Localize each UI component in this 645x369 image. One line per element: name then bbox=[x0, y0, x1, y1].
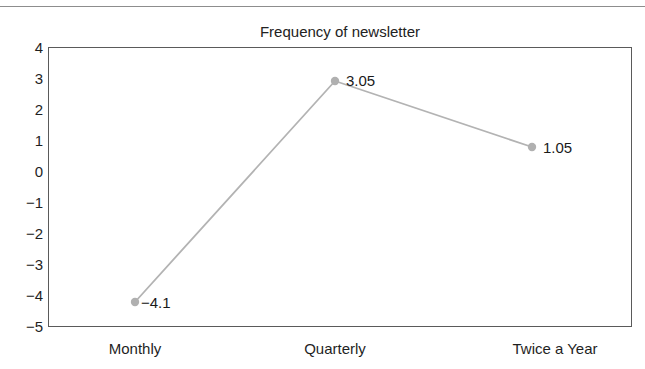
y-tick-label: 3 bbox=[3, 71, 43, 86]
data-point-marker[interactable] bbox=[131, 298, 139, 306]
y-tick-label: −2 bbox=[3, 226, 43, 241]
x-tick-label-monthly: Monthly bbox=[75, 340, 195, 357]
y-tick-label: −3 bbox=[3, 257, 43, 272]
y-tick-label: −1 bbox=[3, 195, 43, 210]
y-axis: 4 3 2 1 0 −1 −2 −3 −4 −5 bbox=[0, 0, 43, 369]
data-point-label: 1.05 bbox=[543, 140, 572, 155]
data-line bbox=[135, 81, 532, 302]
top-divider-rule bbox=[0, 6, 645, 7]
y-tick-label: −4 bbox=[3, 288, 43, 303]
y-tick-label: 2 bbox=[3, 102, 43, 117]
chart-page: Frequency of newsletter 4 3 2 1 0 −1 −2 … bbox=[0, 0, 645, 369]
y-tick-label: −5 bbox=[3, 319, 43, 334]
data-point-marker[interactable] bbox=[528, 143, 536, 151]
y-tick-label: 4 bbox=[3, 40, 43, 55]
data-point-label: −4.1 bbox=[141, 295, 171, 310]
chart-title: Frequency of newsletter bbox=[48, 23, 632, 41]
x-tick-label-twice-a-year: Twice a Year bbox=[485, 340, 625, 357]
line-chart-plot bbox=[48, 47, 632, 327]
y-tick-label: 1 bbox=[3, 133, 43, 148]
x-tick-label-quarterly: Quarterly bbox=[275, 340, 395, 357]
data-point-marker[interactable] bbox=[331, 77, 339, 85]
y-tick-label: 0 bbox=[3, 164, 43, 179]
data-point-label: 3.05 bbox=[346, 73, 375, 88]
